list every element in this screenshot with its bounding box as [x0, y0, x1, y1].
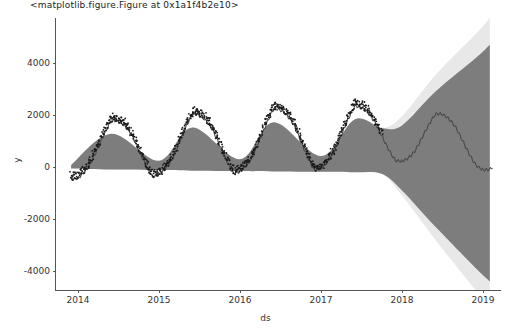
- x-tick-label: 2017: [310, 295, 333, 305]
- x-tickmark: [321, 290, 322, 293]
- y-tick-label: 4000: [27, 58, 50, 68]
- figure-container: <matplotlib.figure.Figure at 0x1a1f4b2e1…: [0, 0, 531, 335]
- x-tickmark: [78, 290, 79, 293]
- y-tick-label: -2000: [24, 214, 50, 224]
- x-axis-label: ds: [0, 313, 531, 323]
- y-tick-label: 2000: [27, 110, 50, 120]
- x-tickmark: [483, 290, 484, 293]
- x-tickmark: [240, 290, 241, 293]
- uncertainty-band: [71, 45, 490, 282]
- x-tickmark: [159, 290, 160, 293]
- x-tick-label: 2019: [472, 295, 495, 305]
- plot-axes: 4000 2000 0 -2000 -4000 2014 2015 2016 2…: [55, 18, 501, 291]
- x-tick-label: 2018: [391, 295, 414, 305]
- y-axis-label: y: [12, 157, 22, 162]
- y-tick-label: 0: [44, 162, 50, 172]
- x-tickmark: [402, 290, 403, 293]
- x-tick-label: 2015: [148, 295, 171, 305]
- x-tick-label: 2014: [67, 295, 90, 305]
- plot-drawing-area: [56, 18, 501, 290]
- y-tick-label: -4000: [24, 266, 50, 276]
- x-tick-label: 2016: [229, 295, 252, 305]
- forecast-series: [56, 18, 501, 290]
- figure-repr-text: <matplotlib.figure.Figure at 0x1a1f4b2e1…: [30, 0, 239, 10]
